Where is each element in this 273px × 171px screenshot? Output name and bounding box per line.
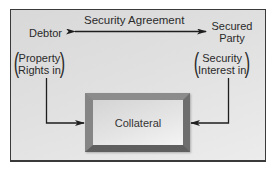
collateral-box: Collateral <box>85 93 190 152</box>
debtor-label: Debtor <box>29 27 62 39</box>
collateral-label: Collateral <box>115 117 161 129</box>
property-line1: Property <box>18 52 61 64</box>
close-paren: ) <box>60 50 65 77</box>
property-line2: Rights in <box>18 64 61 76</box>
secured-party-line1: Secured <box>208 20 256 32</box>
security-line1: Security <box>198 52 246 64</box>
secured-party-label: Secured Party <box>208 20 256 44</box>
property-rights-note: ( Property Rights in ) <box>12 50 67 77</box>
security-line2: Interest in <box>198 64 246 76</box>
open-paren: ( <box>194 50 199 77</box>
secured-party-line2: Party <box>208 32 256 44</box>
right-connector-arrow <box>191 78 229 123</box>
agreement-label: Security Agreement <box>84 14 184 26</box>
left-connector-arrow <box>47 78 85 123</box>
security-interest-note: ( Security Interest in ) <box>192 50 252 77</box>
close-paren: ) <box>245 50 250 77</box>
open-paren: ( <box>14 50 19 77</box>
